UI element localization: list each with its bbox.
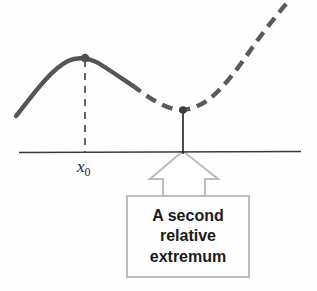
callout-line-1: A second bbox=[128, 206, 248, 226]
marker-relative-maximum bbox=[81, 54, 90, 63]
figure-relative-extremum: x0 A second relative extremum bbox=[0, 0, 317, 291]
x-axis-line bbox=[19, 152, 301, 153]
callout-line-2: relative bbox=[128, 226, 248, 246]
curve-dashed-segment bbox=[132, 0, 292, 110]
callout-up-arrow bbox=[150, 151, 218, 196]
marker-second-relative-extremum bbox=[179, 106, 187, 114]
callout-text-block: A second relative extremum bbox=[128, 206, 248, 267]
axis-label-x0-subscript: 0 bbox=[85, 165, 91, 179]
axis-label-x0: x0 bbox=[77, 158, 91, 178]
curve-solid-segment bbox=[16, 58, 133, 116]
axis-label-x0-base: x bbox=[77, 157, 85, 176]
callout-line-3: extremum bbox=[128, 247, 248, 267]
